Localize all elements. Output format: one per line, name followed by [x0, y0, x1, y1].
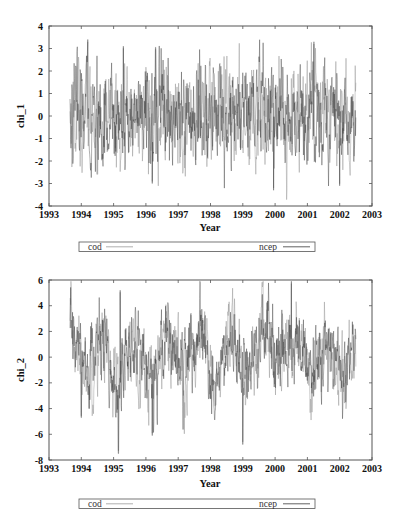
x-tick-label: 1998 — [201, 463, 221, 474]
x-tick-label: 1994 — [71, 463, 91, 474]
chi2-y-ticks: 6420-2-4-6-8 — [35, 275, 372, 466]
y-tick-label: -8 — [35, 455, 43, 466]
chi2-x-axis-title: Year — [200, 478, 221, 489]
x-tick-label: 2003 — [362, 463, 382, 474]
y-tick-label: 4 — [38, 300, 43, 311]
x-tick-label: 2002 — [330, 463, 350, 474]
x-tick-label: 1999 — [233, 463, 253, 474]
x-tick-label: 2000 — [265, 463, 285, 474]
chi2-legend-ncep-label: ncep — [259, 499, 277, 509]
chart-chi2: 1993199419951996199719981999200020012002… — [0, 0, 402, 527]
y-tick-label: 2 — [38, 326, 43, 337]
x-tick-label: 1996 — [136, 463, 156, 474]
chi2-plot-area: 1993199419951996199719981999200020012002… — [35, 275, 382, 475]
x-tick-label: 1995 — [104, 463, 124, 474]
x-tick-label: 2001 — [297, 463, 317, 474]
chi2-legend-cod-label: cod — [88, 499, 102, 509]
x-tick-label: 1997 — [168, 463, 188, 474]
y-tick-label: -2 — [35, 377, 43, 388]
y-tick-label: 6 — [38, 275, 43, 286]
y-tick-label: 0 — [38, 352, 43, 363]
chi2-legend: cod ncep — [79, 499, 315, 509]
chi2-x-ticks: 1993199419951996199719981999200020012002… — [39, 280, 382, 474]
chi2-y-axis-title: chi_2 — [15, 358, 26, 382]
chart-chi2-panel: 1993199419951996199719981999200020012002… — [0, 0, 402, 527]
y-tick-label: -6 — [35, 429, 43, 440]
chi2-series — [70, 281, 356, 453]
y-tick-label: -4 — [35, 403, 43, 414]
